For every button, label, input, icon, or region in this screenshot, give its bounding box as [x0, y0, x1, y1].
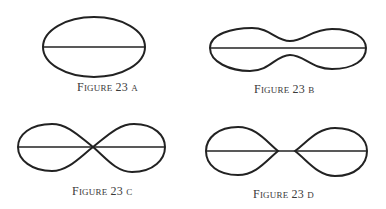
figure-23c-shape [18, 124, 165, 172]
figure-23a-caption: Figure 23 a [77, 80, 138, 95]
caption-number: 23 [111, 184, 123, 198]
figure-23b-shape [210, 28, 366, 71]
caption-word: Figure [254, 82, 289, 96]
caption-letter: c [126, 187, 132, 197]
caption-number: 23 [116, 80, 128, 94]
figures-canvas [0, 0, 386, 209]
figure-23d-shape [206, 127, 367, 176]
caption-number: 23 [292, 187, 304, 201]
caption-number: 23 [293, 82, 305, 96]
figure-23d-caption: Figure 23 d [253, 187, 314, 202]
figure-23a-shape [43, 17, 145, 77]
figure-23c-caption: Figure 23 c [72, 184, 132, 199]
caption-word: Figure [72, 184, 107, 198]
caption-letter: a [131, 83, 138, 93]
caption-letter: d [307, 190, 314, 200]
caption-word: Figure [77, 80, 112, 94]
caption-letter: b [308, 85, 314, 95]
caption-word: Figure [253, 187, 288, 201]
figure-23b-caption: Figure 23 b [254, 82, 314, 97]
